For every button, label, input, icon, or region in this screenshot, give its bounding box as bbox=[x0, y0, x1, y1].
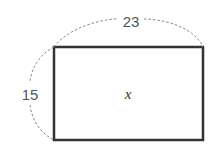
height-arc-bottom bbox=[30, 105, 54, 140]
rectangle-diagram: 23 15 x bbox=[0, 0, 217, 155]
width-arc-right bbox=[144, 19, 203, 47]
width-arc-left bbox=[54, 19, 118, 47]
height-label: 15 bbox=[22, 86, 39, 103]
width-label: 23 bbox=[123, 13, 140, 30]
area-variable-label: x bbox=[124, 86, 132, 102]
height-arc-top bbox=[30, 47, 54, 82]
